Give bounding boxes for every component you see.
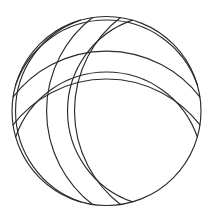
figure-canvas [0,0,212,220]
figure-background [0,0,212,220]
geometric-arc-figure [0,0,212,220]
